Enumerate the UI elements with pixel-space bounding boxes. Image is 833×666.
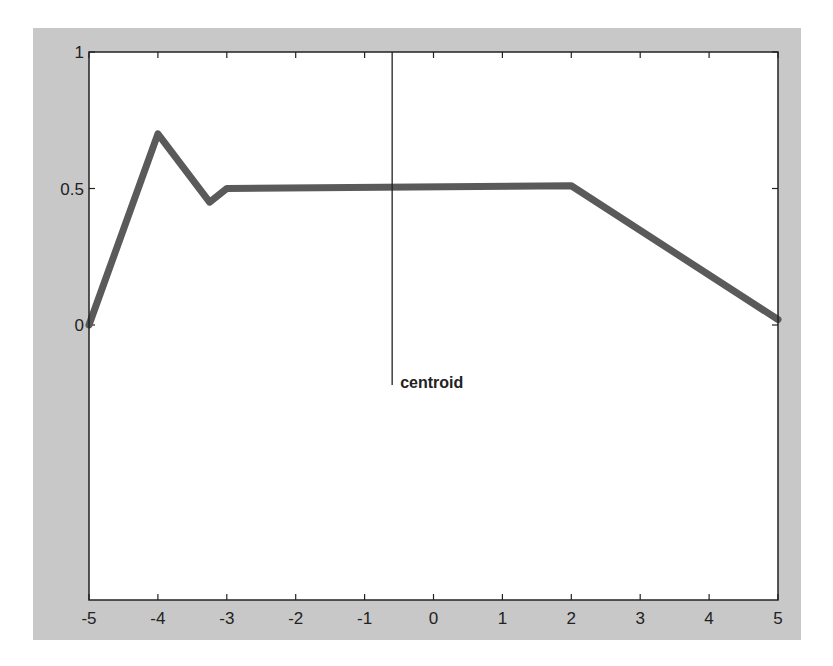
axes-background — [89, 52, 778, 600]
x-tick-label: -1 — [357, 609, 372, 628]
y-tick-label: 1 — [75, 43, 84, 62]
x-tick-label: 0 — [429, 609, 438, 628]
y-tick-label: 0.5 — [60, 180, 84, 199]
x-tick-label: 2 — [567, 609, 576, 628]
x-tick-label: 1 — [498, 609, 507, 628]
figure: -5-4-3-2-101234500.51 centroid — [0, 0, 833, 666]
x-tick-label: -5 — [81, 609, 96, 628]
x-tick-label: 5 — [773, 609, 782, 628]
x-tick-label: -4 — [150, 609, 165, 628]
x-tick-label: -2 — [288, 609, 303, 628]
y-tick-label: 0 — [75, 316, 84, 335]
x-tick-label: 3 — [635, 609, 644, 628]
x-tick-label: 4 — [704, 609, 713, 628]
centroid-label: centroid — [400, 374, 463, 391]
x-tick-label: -3 — [219, 609, 234, 628]
